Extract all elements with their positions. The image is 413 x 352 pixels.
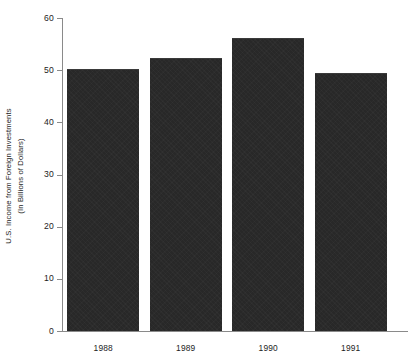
bar-chart-figure: U.S. Income from Foreign Investments (In…	[0, 0, 413, 352]
x-tick-label-1988: 1988	[94, 343, 113, 352]
x-tick-label-1990: 1990	[259, 343, 278, 352]
y-tick-label: 40	[44, 117, 54, 127]
y-tick-label: 60	[44, 13, 54, 23]
y-axis-title-line-1: U.S. Income from Foreign Investments	[4, 108, 14, 243]
y-tick-label: 0	[49, 326, 54, 336]
y-tick-label: 10	[44, 273, 54, 283]
y-tick-label: 30	[44, 169, 54, 179]
y-tick-label: 20	[44, 221, 54, 231]
y-axis-title-line-2: (In Billions of Dollars)	[16, 138, 26, 213]
x-axis-ticks: 1988198919901991	[62, 0, 392, 352]
x-tick-label-1989: 1989	[176, 343, 195, 352]
x-tick-label-1991: 1991	[341, 343, 360, 352]
y-tick-label: 50	[44, 65, 54, 75]
y-axis-title: U.S. Income from Foreign Investments (In…	[0, 0, 30, 352]
